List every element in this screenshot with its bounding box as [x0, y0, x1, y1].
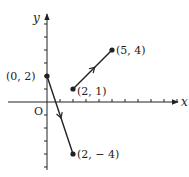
coordinate-plane: xyO(0, 2)(2, − 4)(2, 1)(5, 4) [0, 0, 189, 177]
endpoint [70, 86, 75, 91]
point-label: (0, 2) [6, 70, 36, 83]
endpoint [70, 151, 75, 156]
segment [47, 76, 73, 154]
endpoint [109, 47, 114, 52]
origin-label: O [34, 105, 43, 118]
x-axis-label: x [181, 95, 188, 109]
segment [73, 50, 112, 89]
y-axis-label: y [32, 11, 40, 25]
labels: xyO(0, 2)(2, − 4)(2, 1)(5, 4) [6, 11, 188, 161]
axis-ticks [44, 24, 177, 167]
point-label: (2, − 4) [77, 148, 119, 161]
point-label: (2, 1) [77, 85, 107, 98]
point-label: (5, 4) [116, 44, 146, 57]
endpoint [44, 73, 49, 78]
